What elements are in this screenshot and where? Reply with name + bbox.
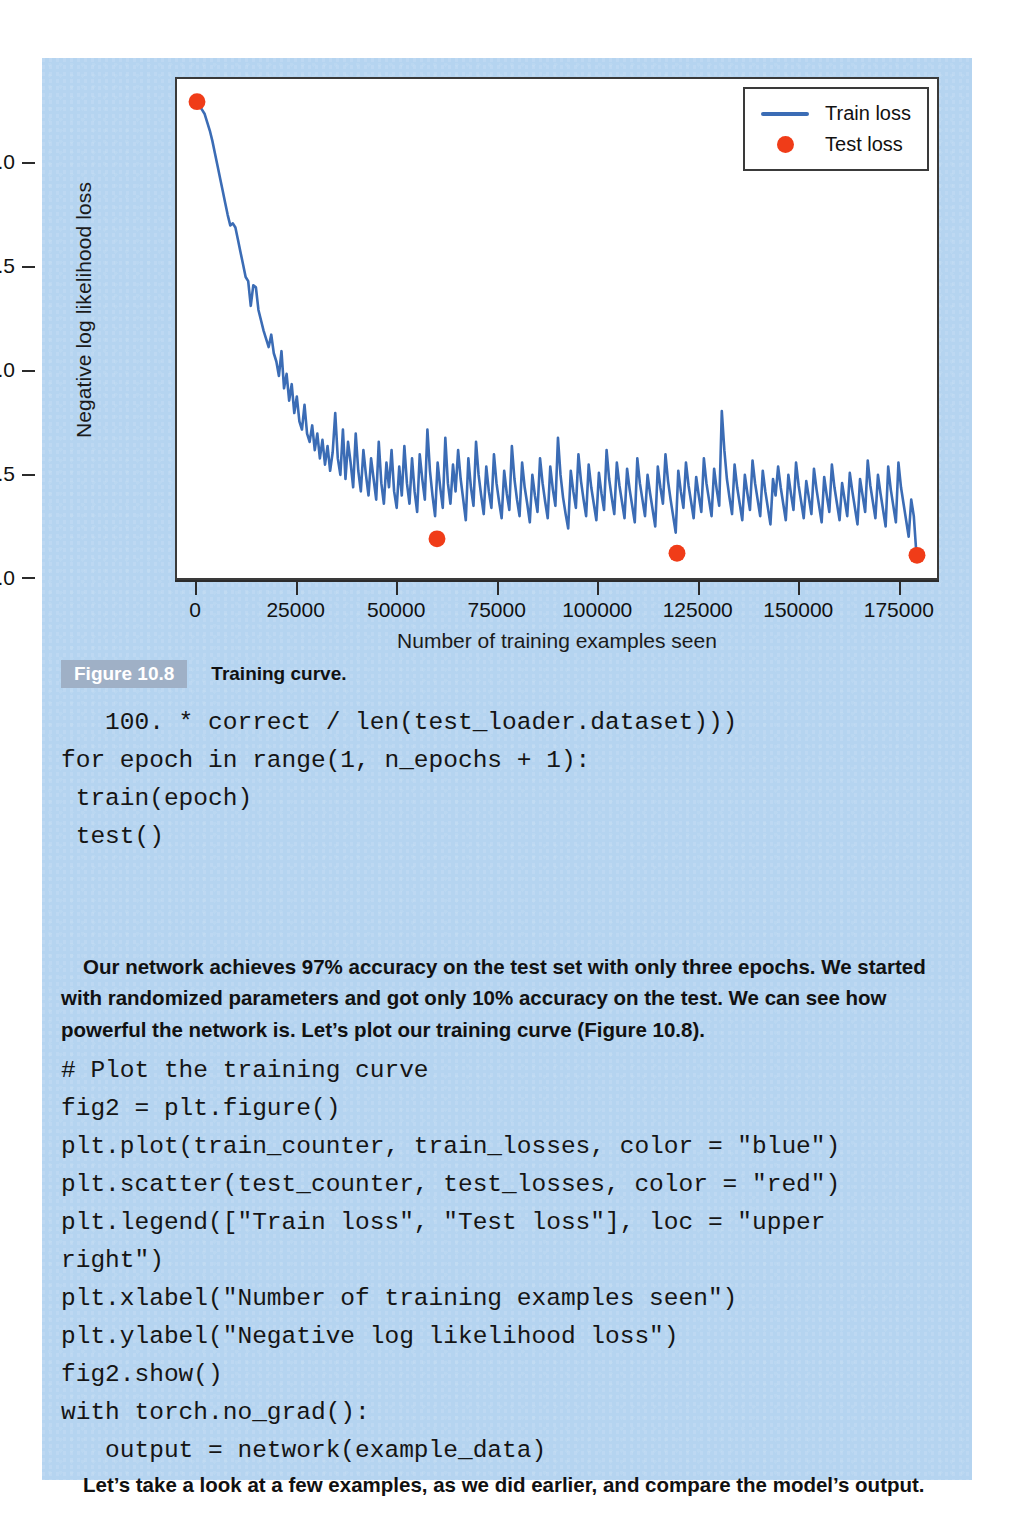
legend-label-test-loss: Test loss: [825, 133, 903, 156]
chart-y-tick-label: 1.5: [0, 254, 35, 278]
chart-x-tick-label: 50000: [367, 598, 425, 622]
legend-label-train-loss: Train loss: [825, 102, 911, 125]
chart-y-axis-title: Negative log likelihood loss: [72, 100, 96, 520]
test-loss-point: [429, 530, 446, 547]
chart-y-tick-label: 0.5: [0, 462, 35, 486]
figure-caption-text: Training curve.: [211, 663, 346, 685]
chart-x-tick-label: 75000: [467, 598, 525, 622]
chart-x-tick-mark: [798, 582, 800, 595]
body-paragraph-accuracy: Our network achieves 97% accuracy on the…: [61, 951, 956, 1046]
legend-line-swatch-icon: [757, 112, 813, 116]
figure-10-8: Negative log likelihood loss 0.00.51.01.…: [42, 58, 972, 658]
legend-entry-test-loss: Test loss: [757, 129, 911, 160]
chart-x-tick-label: 125000: [663, 598, 733, 622]
chart-x-tick-mark: [899, 582, 901, 595]
chart-x-tick-label: 175000: [864, 598, 934, 622]
body-paragraph-examples: Let’s take a look at a few examples, as …: [61, 1469, 956, 1501]
chart-y-tick-mark: [22, 162, 35, 164]
code-block-plot-training-curve: # Plot the training curve fig2 = plt.fig…: [61, 1052, 840, 1470]
chart-x-tick-label: 150000: [763, 598, 833, 622]
chart-y-tick-label: 1.0: [0, 358, 35, 382]
figure-number-badge: Figure 10.8: [61, 660, 187, 689]
legend-entry-train-loss: Train loss: [757, 98, 911, 129]
chart-x-tick-label: 0: [189, 598, 201, 622]
chart-legend: Train loss Test loss: [743, 87, 929, 171]
chart-x-tick-mark: [497, 582, 499, 595]
chart-x-tick-mark: [296, 582, 298, 595]
test-loss-point: [669, 545, 686, 562]
chart-y-tick-mark: [22, 370, 35, 372]
chart-y-tick-label: 2.0: [0, 150, 35, 174]
chart-y-tick-label: 0.0: [0, 566, 35, 590]
chart-y-tick-mark: [22, 266, 35, 268]
book-page-panel: Negative log likelihood loss 0.00.51.01.…: [42, 58, 972, 1480]
chart-x-tick-mark: [195, 582, 197, 595]
test-loss-point: [189, 93, 206, 110]
chart-x-tick-mark: [597, 582, 599, 595]
chart-x-axis-line: [175, 580, 939, 582]
chart-y-tick-mark: [22, 474, 35, 476]
figure-caption: Figure 10.8 Training curve.: [61, 659, 346, 689]
series-train-loss: [197, 104, 916, 554]
chart-x-tick-label: 100000: [562, 598, 632, 622]
chart-x-tick-mark: [698, 582, 700, 595]
chart-y-tick-mark: [22, 577, 35, 579]
chart-plot-area: Train loss Test loss: [175, 77, 939, 580]
chart-x-axis-title: Number of training examples seen: [175, 629, 939, 653]
legend-dot-swatch-icon: [757, 136, 813, 153]
test-loss-point: [909, 547, 926, 564]
code-block-epoch-loop: 100. * correct / len(test_loader.dataset…: [61, 704, 737, 856]
chart-x-tick-label: 25000: [266, 598, 324, 622]
chart-x-tick-mark: [396, 582, 398, 595]
